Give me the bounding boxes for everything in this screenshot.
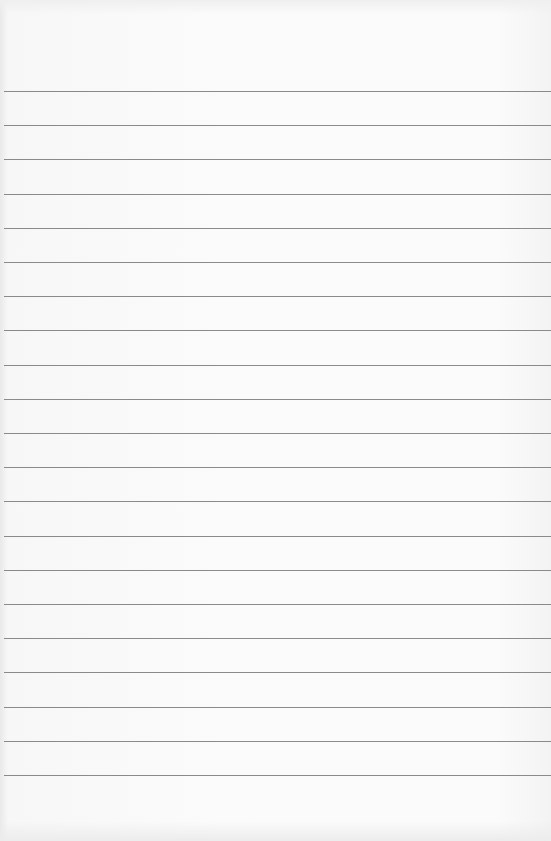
ruled-line	[4, 536, 551, 537]
ruled-line	[4, 775, 551, 776]
lined-paper-sheet	[0, 0, 551, 841]
ruled-line	[4, 262, 551, 263]
paper-top-edge	[0, 0, 551, 14]
ruled-line	[4, 159, 551, 160]
ruled-line	[4, 365, 551, 366]
ruled-line	[4, 638, 551, 639]
ruled-line	[4, 741, 551, 742]
ruled-line	[4, 467, 551, 468]
ruled-line	[4, 570, 551, 571]
paper-bottom-edge	[0, 821, 551, 841]
ruled-line	[4, 91, 551, 92]
ruled-line	[4, 194, 551, 195]
ruled-line	[4, 399, 551, 400]
ruled-line	[4, 433, 551, 434]
ruled-line	[4, 672, 551, 673]
ruled-line	[4, 125, 551, 126]
ruled-line	[4, 707, 551, 708]
ruled-line	[4, 501, 551, 502]
ruled-line	[4, 296, 551, 297]
ruled-line	[4, 228, 551, 229]
ruled-line	[4, 330, 551, 331]
ruled-line	[4, 604, 551, 605]
